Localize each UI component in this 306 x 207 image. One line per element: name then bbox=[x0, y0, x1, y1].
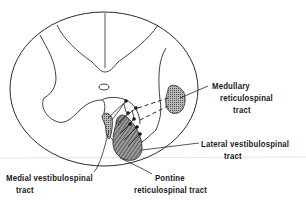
label-medial-vestibulospinal-tract: Medial vestibulospinal bbox=[6, 172, 93, 183]
label-medullary-reticulospinal-tract: Medullary bbox=[212, 80, 250, 91]
label-pontine-reticulospinal-tract: Pontine bbox=[155, 172, 185, 183]
label-line: Pontine bbox=[155, 172, 185, 183]
spinal-cord-diagram: Medullary reticulospinal tract Lateral v… bbox=[0, 0, 306, 207]
label-lateral-line2: tract bbox=[224, 150, 242, 161]
label-line: Medullary bbox=[212, 80, 250, 91]
scan-line bbox=[0, 157, 306, 158]
medullary-tract-area bbox=[166, 85, 186, 113]
label-line: Medial vestibulospinal bbox=[6, 172, 93, 183]
medial-vestibulospinal-tract-area bbox=[102, 113, 112, 138]
label-medial-line2: tract bbox=[16, 184, 34, 195]
label-medullary-line2: reticulospinal bbox=[220, 92, 273, 103]
gray-matter-outline bbox=[40, 25, 166, 146]
label-line: tract bbox=[224, 150, 242, 161]
label-pontine-line2: reticulospinal tract bbox=[134, 184, 207, 195]
label-line: Lateral vestibulospinal bbox=[201, 138, 289, 149]
medullary-dashed-connections bbox=[138, 98, 168, 120]
label-lateral-vestibulospinal-tract: Lateral vestibulospinal bbox=[201, 138, 289, 149]
label-line: reticulospinal tract bbox=[134, 184, 207, 195]
label-line: reticulospinal bbox=[220, 92, 273, 103]
label-line: tract bbox=[233, 104, 251, 115]
central-canal bbox=[99, 84, 109, 90]
label-medullary-line3: tract bbox=[233, 104, 251, 115]
pontine-lateral-tract-area bbox=[113, 115, 142, 160]
label-line: tract bbox=[16, 184, 34, 195]
